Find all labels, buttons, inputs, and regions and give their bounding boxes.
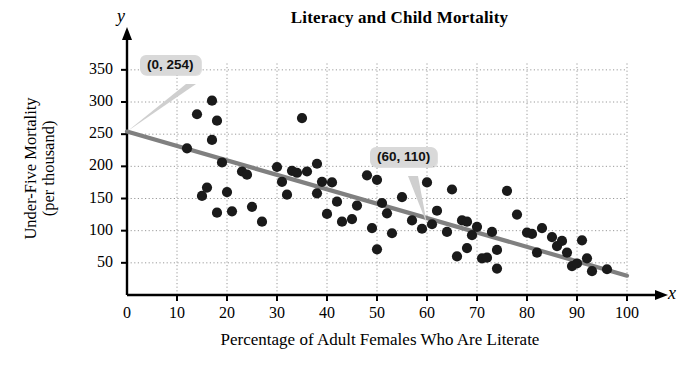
data-point [492,245,502,255]
data-point [322,209,332,219]
data-point [462,217,472,227]
x-tick-label-90: 90 [557,304,597,322]
data-point [352,200,362,210]
data-point [367,223,377,233]
data-point [372,244,382,254]
data-point [202,182,212,192]
data-point [242,170,252,180]
y-tick-label-150: 150 [73,189,113,207]
data-point [327,177,337,187]
data-point [587,266,597,276]
data-point [207,135,217,145]
data-point [207,96,217,106]
data-point [417,224,427,234]
data-points [182,96,612,277]
data-point [512,209,522,219]
y-tick-label-200: 200 [73,156,113,174]
data-point [572,258,582,268]
data-point [582,253,592,263]
data-point [312,188,322,198]
data-point [602,264,612,274]
data-point [297,113,307,123]
data-point [427,219,437,229]
x-tick-label-60: 60 [407,304,447,322]
data-point [182,143,192,153]
data-point [462,243,472,253]
data-point [277,177,287,187]
data-point [217,157,227,167]
data-point [212,116,222,126]
data-point [397,192,407,202]
data-point [492,264,502,274]
y-tick-label-100: 100 [73,221,113,239]
data-point [362,170,372,180]
x-tick-label-40: 40 [307,304,347,322]
y-tick-label-250: 250 [73,124,113,142]
data-point [422,177,432,187]
data-point [472,222,482,232]
data-point [227,206,237,216]
data-point [442,227,452,237]
x-tick-label-80: 80 [507,304,547,322]
data-point [292,168,302,178]
data-point [312,159,322,169]
x-tick-label-0: 0 [107,304,147,322]
x-tick-label-20: 20 [207,304,247,322]
data-point [257,217,267,227]
data-point [527,229,537,239]
data-point [377,198,387,208]
data-point [282,190,292,200]
data-point [222,187,232,197]
data-point [562,247,572,257]
data-point [537,223,547,233]
data-point [452,251,462,261]
annotation-callout-0-254: (0, 254) [140,55,201,75]
y-tick-label-350: 350 [73,60,113,78]
data-point [272,162,282,172]
data-point [557,236,567,246]
data-point [302,166,312,176]
data-point [482,253,492,263]
data-point [317,177,327,187]
annotation-callout-60-110: (60, 110) [370,147,437,167]
data-point [387,228,397,238]
x-tick-label-100: 100 [607,304,647,322]
axis-ticks [121,70,627,301]
data-point [337,217,347,227]
x-tick-label-70: 70 [457,304,497,322]
data-point [532,247,542,257]
y-tick-label-50: 50 [73,253,113,271]
data-point [502,186,512,196]
data-point [192,109,202,119]
data-point [407,215,417,225]
data-point [347,214,357,224]
x-tick-label-50: 50 [357,304,397,322]
y-tick-label-300: 300 [73,92,113,110]
data-point [577,235,587,245]
data-point [372,175,382,185]
data-point [212,208,222,218]
x-tick-label-10: 10 [157,304,197,322]
chart-figure: Literacy and Child Mortality Under-Five … [0,0,695,369]
data-point [332,197,342,207]
data-point [247,202,257,212]
data-point [487,227,497,237]
data-point [432,206,442,216]
data-point [382,208,392,218]
data-point [547,232,557,242]
x-tick-label-30: 30 [257,304,297,322]
data-point [447,184,457,194]
